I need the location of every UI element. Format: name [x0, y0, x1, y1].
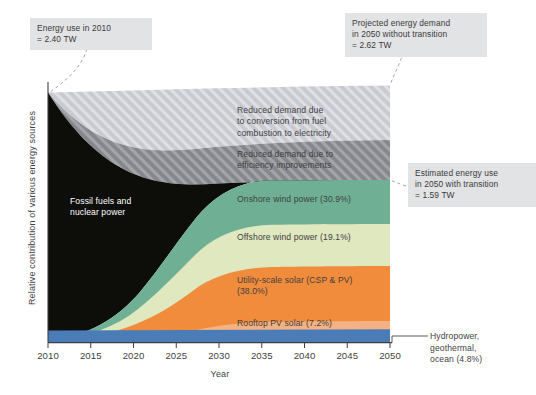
band-label-onshore-wind: Onshore wind power (30.9%): [237, 194, 397, 205]
x-tick-2045: 2045: [327, 350, 367, 361]
band-label-rooftop-pv-solar: Rooftop PV solar (7.2%): [237, 318, 397, 329]
band-label-offshore-wind: Offshore wind power (19.1%): [237, 232, 397, 243]
x-tick-2040: 2040: [285, 350, 325, 361]
x-tick-2030: 2030: [199, 350, 239, 361]
band-label-efficiency: Reduced demand due to efficiency improve…: [237, 149, 397, 172]
callout-estimated-2050-with-transition: Estimated energy use in 2050 with transi…: [408, 163, 536, 207]
band-label-hydropower-geothermal-ocean: Hydropower, geothermal, ocean (4.8%): [430, 331, 530, 366]
leader-line-2050-with-transition: [390, 180, 406, 186]
y-axis-label: Relative contribution of various energy …: [27, 83, 37, 333]
leader-line-2050-no-transition: [390, 52, 403, 85]
x-tick-2025: 2025: [156, 350, 196, 361]
x-tick-2035: 2035: [242, 350, 282, 361]
x-tick-2050: 2050: [370, 350, 410, 361]
x-tick-2020: 2020: [114, 350, 154, 361]
band-label-conversion: Reduced demand due to conversion from fu…: [237, 105, 397, 139]
x-tick-2015: 2015: [71, 350, 111, 361]
callout-projected-2050-without-transition: Projected energy demand in 2050 without …: [345, 13, 487, 57]
x-axis-label: Year: [0, 369, 440, 379]
band-label-utility-scale-solar: Utility-scale solar (CSP & PV) (38.0%): [237, 275, 397, 298]
x-tick-2010: 2010: [28, 350, 68, 361]
area-hydro-geothermal-ocean-band: [48, 329, 390, 342]
callout-energy-use-2010: Energy use in 2010 = 2.40 TW: [30, 18, 152, 50]
band-label-fossil-fuels-nuclear: Fossil fuels and nuclear power: [70, 196, 190, 219]
x-axis-ticks: [48, 343, 390, 348]
